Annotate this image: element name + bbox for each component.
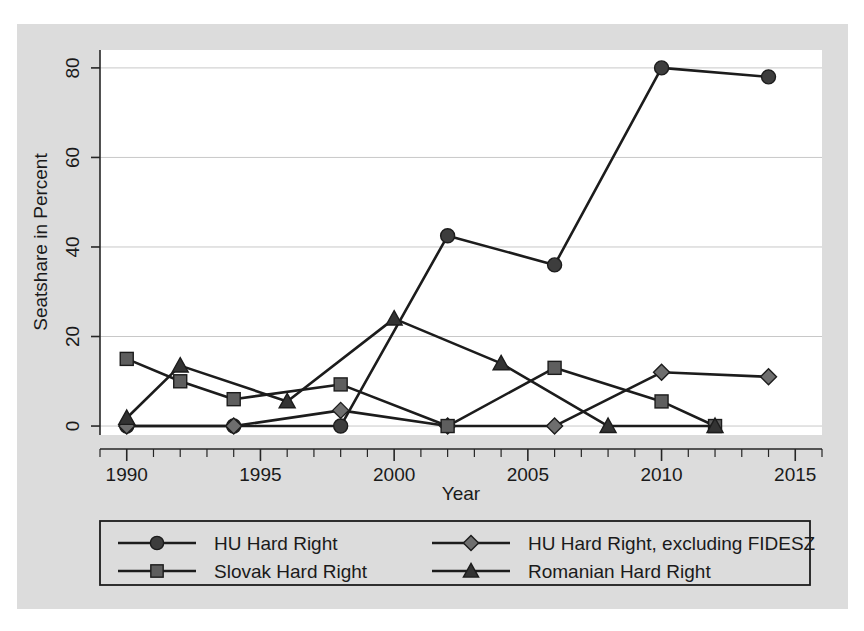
- diamond-marker: [226, 418, 242, 434]
- diamond-marker: [547, 418, 563, 434]
- y-tick-labels: 020406080: [62, 57, 83, 431]
- square-marker: [548, 361, 561, 374]
- circle-marker: [334, 419, 348, 433]
- y-axis-title: Seatshare in Percent: [30, 153, 51, 331]
- square-marker: [151, 565, 163, 577]
- circle-marker: [441, 229, 455, 243]
- x-tick-label: 2015: [774, 464, 816, 485]
- y-tick-label: 60: [62, 147, 83, 168]
- legend-item-2[interactable]: Slovak Hard Right: [118, 561, 368, 582]
- x-tick-label: 2010: [640, 464, 682, 485]
- x-axis-title: Year: [442, 483, 481, 504]
- y-tick-label: 80: [62, 57, 83, 78]
- gridlines: [100, 68, 822, 426]
- axis-lines: [100, 50, 822, 449]
- square-marker: [334, 378, 347, 391]
- chart-figure: 020406080 199019952000200520102015 Seats…: [0, 0, 864, 631]
- seatshare-line-chart: 020406080 199019952000200520102015 Seats…: [0, 0, 864, 631]
- circle-marker: [150, 536, 163, 549]
- diamond-marker: [654, 364, 670, 380]
- series-line: [127, 359, 715, 426]
- triangle-marker: [172, 358, 188, 372]
- x-tick-label: 2000: [373, 464, 415, 485]
- legend-label: Romanian Hard Right: [528, 561, 711, 582]
- y-tick-label: 40: [62, 236, 83, 257]
- series-2: [120, 352, 721, 432]
- y-tick-label: 20: [62, 326, 83, 347]
- legend-label: Slovak Hard Right: [214, 561, 368, 582]
- triangle-marker: [493, 355, 509, 369]
- square-marker: [655, 395, 668, 408]
- series-3: [119, 311, 723, 433]
- legend-label: HU Hard Right, excluding FIDESZ: [528, 533, 816, 554]
- legend-label: HU Hard Right: [214, 533, 338, 554]
- square-marker: [441, 420, 454, 433]
- diamond-marker: [463, 535, 478, 550]
- series-line: [127, 319, 715, 426]
- legend-item-3[interactable]: Romanian Hard Right: [432, 561, 711, 582]
- y-tick-label: 0: [62, 421, 83, 432]
- x-tick-label: 2005: [507, 464, 549, 485]
- legend-item-0[interactable]: HU Hard Right: [118, 533, 338, 554]
- x-tick-label: 1990: [106, 464, 148, 485]
- legend-item-1[interactable]: HU Hard Right, excluding FIDESZ: [432, 533, 816, 554]
- square-marker: [174, 375, 187, 388]
- x-tick-label: 1995: [239, 464, 281, 485]
- triangle-marker: [386, 311, 402, 325]
- square-marker: [120, 352, 133, 365]
- tick-marks: [91, 68, 822, 461]
- circle-marker: [762, 70, 776, 84]
- legend-items: HU Hard RightHU Hard Right, excluding FI…: [118, 533, 816, 582]
- x-tick-labels: 199019952000200520102015: [106, 464, 817, 485]
- square-marker: [227, 393, 240, 406]
- diamond-marker: [761, 369, 777, 385]
- circle-marker: [548, 258, 562, 272]
- chart-legend: HU Hard RightHU Hard Right, excluding FI…: [100, 521, 816, 585]
- circle-marker: [655, 61, 669, 75]
